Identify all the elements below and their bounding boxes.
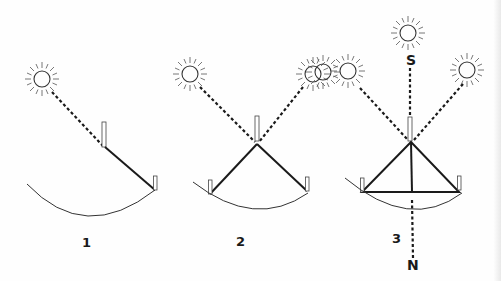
marker-peg [154,176,158,190]
sun-icon [173,57,207,91]
sun-ray [414,84,463,140]
compass-south-label: S [406,53,416,67]
north-ray [412,200,413,258]
panel-label-3: 3 [392,232,401,245]
sun-ray [52,92,104,147]
marker-peg [209,180,213,194]
sundial-diagram [0,0,501,281]
sun-ray [360,88,408,140]
page-edge [493,0,501,281]
diagram-canvas: 1 2 3 S N [0,0,501,281]
gnomon-peg [102,122,106,147]
shadow-line [105,147,155,190]
sun-icon [25,62,59,96]
sun-ray [200,87,255,142]
panel-label-1: 1 [82,236,91,249]
gnomon-peg [408,117,412,141]
sun-icon [450,53,484,87]
marker-peg [458,176,462,190]
sun-ray [259,87,303,142]
arc [27,184,155,216]
panel-label-2: 2 [236,235,245,248]
marker-peg [306,177,310,191]
panel-1 [25,62,157,216]
shadow-line [210,144,257,194]
panel-3 [306,16,484,258]
gnomon-peg [255,116,259,141]
sun-icon [306,55,340,89]
sun-icon [331,54,365,88]
sun-icon [391,16,425,50]
center-line [411,142,412,192]
panel-2 [173,57,330,209]
compass-north-label: N [407,258,419,272]
shadow-line [257,144,307,191]
